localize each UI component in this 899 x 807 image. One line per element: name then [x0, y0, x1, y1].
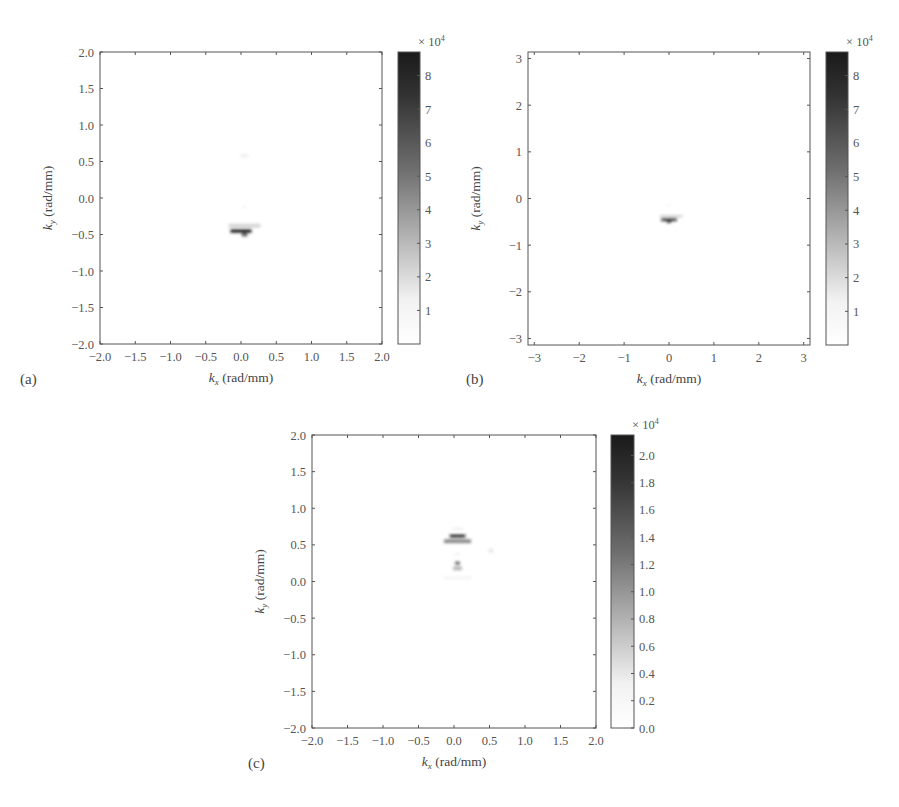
- y-tick-label: −2.0: [71, 338, 94, 352]
- y-axis-label: ky (rad/mm): [40, 166, 57, 230]
- colorbar-tick-label: 1: [425, 304, 431, 318]
- y-tick-label: 1: [516, 145, 522, 159]
- heatmap-blob: [660, 215, 682, 217]
- colorbar: 0.00.20.40.60.81.01.21.41.61.82.0× 104: [611, 417, 659, 736]
- heatmap-blob: [452, 528, 463, 530]
- colorbar-tick-label: 2.0: [639, 449, 655, 463]
- y-axis-label: ky (rad/mm): [252, 549, 269, 613]
- y-tick-label: 0.0: [290, 575, 306, 589]
- colorbar-tick-label: 1.4: [639, 531, 655, 545]
- x-tick-label: 3: [801, 351, 807, 365]
- colorbar-tick-label: 7: [853, 103, 859, 117]
- x-tick-label: 0.0: [446, 734, 462, 748]
- colorbar-tick-label: 1.0: [639, 585, 655, 599]
- y-tick-label: 1.0: [290, 502, 306, 516]
- colorbar-tick-label: 6: [425, 136, 431, 150]
- y-tick-label: −0.5: [283, 612, 306, 626]
- heatmap-blob: [444, 539, 471, 543]
- y-tick-label: 1.0: [78, 119, 94, 133]
- x-tick-label: 1.0: [517, 734, 533, 748]
- panel-a: −2.0−1.5−1.0−0.50.00.51.01.52.0−2.0−1.5−…: [20, 34, 445, 388]
- colorbar-gradient: [611, 435, 634, 728]
- x-tick-label: −1.0: [372, 734, 395, 748]
- heatmap-blob: [489, 549, 493, 553]
- heatmap-blob: [455, 562, 459, 565]
- x-tick-label: −2: [573, 351, 586, 365]
- y-tick-label: 1.5: [78, 82, 94, 96]
- x-tick-label: −1.5: [336, 734, 359, 748]
- colorbar-tick-label: 1.8: [639, 476, 655, 490]
- y-tick-label: −0.5: [71, 228, 94, 242]
- heatmap-blob: [453, 566, 462, 570]
- colorbar-tick-label: 5: [425, 170, 431, 184]
- colorbar-multiplier: × 104: [632, 417, 659, 432]
- heatmap-blob: [456, 553, 460, 555]
- y-tick-label: −1.5: [283, 685, 306, 699]
- colorbar-tick-label: 0.8: [639, 612, 655, 626]
- colorbar-tick-label: 5: [853, 170, 859, 184]
- colorbar-tick-label: 0.6: [639, 640, 655, 654]
- y-tick-label: 1.5: [290, 465, 306, 479]
- heatmap-blob: [450, 535, 466, 538]
- x-tick-label: 1: [711, 351, 717, 365]
- colorbar-tick-label: 1: [853, 305, 859, 319]
- y-tick-label: 0.5: [78, 155, 94, 169]
- y-tick-label: −3: [509, 332, 522, 346]
- colorbar-tick-label: 1.6: [639, 503, 655, 517]
- colorbar-gradient: [398, 52, 420, 344]
- x-tick-label: 2.0: [374, 350, 390, 364]
- y-tick-label: 2.0: [78, 46, 94, 60]
- colorbar-tick-label: 0.0: [639, 722, 655, 736]
- plot-area: [100, 52, 382, 344]
- colorbar-tick-label: 3: [853, 237, 859, 251]
- y-tick-label: −1: [509, 239, 522, 253]
- colorbar-tick-label: 2: [425, 270, 431, 284]
- x-tick-label: −3: [528, 351, 541, 365]
- x-tick-label: −0.5: [194, 350, 217, 364]
- x-tick-label: 2.0: [588, 734, 604, 748]
- colorbar-tick-label: 8: [853, 69, 859, 83]
- panel-label: (c): [248, 755, 265, 772]
- heatmap-blob: [230, 229, 251, 233]
- colorbar-tick-label: 2: [853, 271, 859, 285]
- heatmap-blob: [229, 224, 261, 228]
- colorbar-tick-label: 4: [425, 203, 432, 217]
- x-tick-label: −2.0: [301, 734, 324, 748]
- y-tick-label: 2: [516, 99, 522, 113]
- x-axis-label: kx (rad/mm): [209, 370, 273, 387]
- y-tick-label: 3: [516, 52, 522, 66]
- x-tick-label: 1.0: [304, 350, 320, 364]
- colorbar-tick-label: 4: [853, 204, 860, 218]
- colorbar: 12345678× 104: [398, 34, 445, 344]
- y-tick-label: −1.0: [71, 265, 94, 279]
- x-tick-label: −1.0: [159, 350, 182, 364]
- x-tick-label: −0.5: [407, 734, 430, 748]
- y-tick-label: 0.0: [78, 192, 94, 206]
- y-tick-label: −2: [509, 285, 522, 299]
- x-tick-label: 0: [666, 351, 672, 365]
- x-axis-label: kx (rad/mm): [422, 754, 486, 771]
- y-tick-label: −1.5: [71, 301, 94, 315]
- y-tick-label: −2.0: [283, 722, 306, 736]
- x-axis-label: kx (rad/mm): [637, 371, 701, 388]
- heatmap-blob: [443, 577, 471, 579]
- colorbar-multiplier: × 104: [846, 34, 873, 49]
- plot-area: [528, 52, 810, 345]
- plot-area: [312, 435, 596, 728]
- x-tick-label: 2: [756, 351, 762, 365]
- colorbar-tick-label: 1.2: [639, 558, 655, 572]
- colorbar-tick-label: 6: [853, 136, 859, 150]
- x-tick-label: 0.0: [233, 350, 249, 364]
- y-tick-label: 2.0: [290, 429, 306, 443]
- colorbar-multiplier: × 104: [418, 34, 445, 49]
- colorbar-tick-label: 3: [425, 237, 431, 251]
- colorbar-gradient: [826, 52, 848, 345]
- heatmap-blob: [242, 233, 248, 237]
- panel-label: (a): [20, 371, 37, 388]
- x-tick-label: 0.5: [482, 734, 498, 748]
- x-tick-label: 1.5: [553, 734, 569, 748]
- heatmap-blob: [667, 221, 671, 223]
- colorbar: 12345678× 104: [826, 34, 873, 345]
- panel-b: −3−2−10123−3−2−10123kx (rad/mm)ky (rad/m…: [466, 34, 873, 388]
- x-tick-label: 0.5: [268, 350, 284, 364]
